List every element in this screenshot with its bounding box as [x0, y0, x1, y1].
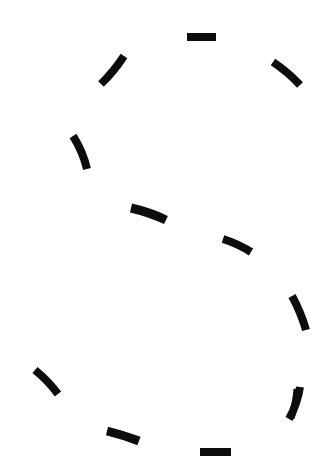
drawing-canvas [0, 0, 330, 470]
dashed-figure-eight-svg [0, 0, 330, 470]
